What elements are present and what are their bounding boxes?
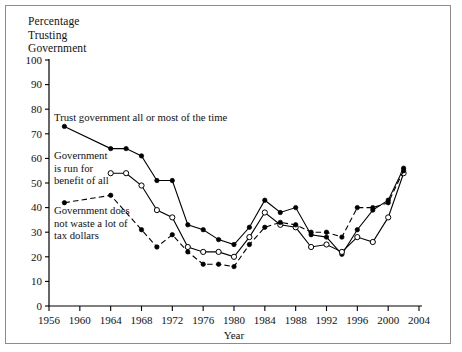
x-tick-label-1968: 1968 — [131, 314, 154, 326]
annotation-benefit-line-2: benefit of all — [54, 174, 109, 186]
x-axis-title: Year — [224, 329, 245, 341]
x-tick-label-1980: 1980 — [223, 314, 246, 326]
data-point-1 — [370, 239, 375, 244]
figure-frame: Percentage Trusting Government 010203040… — [5, 5, 451, 344]
data-point-1 — [108, 171, 113, 176]
x-tick-label-1984: 1984 — [254, 314, 277, 326]
data-point-0 — [324, 235, 328, 239]
series-line-0 — [64, 126, 403, 254]
data-point-2 — [216, 262, 220, 266]
data-point-1 — [339, 249, 344, 254]
data-point-0 — [170, 178, 174, 182]
data-point-1 — [201, 249, 206, 254]
annotation-benefit-line-1: is run for — [54, 162, 94, 174]
data-point-1 — [170, 215, 175, 220]
data-point-1 — [309, 244, 314, 249]
data-point-2 — [294, 223, 298, 227]
data-point-1 — [324, 242, 329, 247]
data-point-0 — [186, 223, 190, 227]
x-tick-label-1956: 1956 — [38, 314, 61, 326]
data-point-0 — [216, 237, 220, 241]
data-point-0 — [62, 124, 66, 128]
data-point-1 — [231, 254, 236, 259]
x-tick-label-1988: 1988 — [285, 314, 308, 326]
annotation-benefit-line-0: Government — [54, 149, 107, 161]
data-point-1 — [185, 244, 190, 249]
data-point-2 — [232, 264, 236, 268]
data-point-0 — [263, 198, 267, 202]
data-point-1 — [124, 171, 129, 176]
data-point-2 — [201, 262, 205, 266]
x-tick-label-2004: 2004 — [408, 314, 431, 326]
y-tick-label-70: 70 — [31, 128, 43, 140]
chart-canvas: 0102030405060708090100195619601964196819… — [6, 6, 452, 345]
annotation-waste-line-2: tax dollars — [54, 229, 99, 241]
data-point-2 — [109, 193, 113, 197]
x-tick-label-1960: 1960 — [69, 314, 92, 326]
data-point-2 — [155, 245, 159, 249]
data-point-0 — [278, 210, 282, 214]
data-point-2 — [186, 250, 190, 254]
data-point-0 — [294, 205, 298, 209]
y-tick-label-80: 80 — [31, 103, 43, 115]
annotation-waste-line-1: not waste a lot of — [54, 217, 128, 229]
y-tick-label-20: 20 — [31, 251, 43, 263]
data-point-1 — [386, 215, 391, 220]
data-point-2 — [324, 230, 328, 234]
x-tick-label-1992: 1992 — [316, 314, 338, 326]
y-tick-label-50: 50 — [31, 177, 43, 189]
series-line-1 — [111, 173, 404, 257]
data-point-1 — [355, 235, 360, 240]
data-point-2 — [371, 205, 375, 209]
x-tick-label-1972: 1972 — [161, 314, 183, 326]
data-point-2 — [401, 169, 405, 173]
y-tick-label-100: 100 — [26, 54, 43, 66]
data-point-2 — [386, 201, 390, 205]
data-point-0 — [155, 178, 159, 182]
y-tick-label-40: 40 — [31, 201, 43, 213]
data-point-2 — [278, 220, 282, 224]
data-point-2 — [309, 230, 313, 234]
data-point-2 — [355, 205, 359, 209]
annotation-waste-line-0: Government does — [54, 204, 130, 216]
data-point-1 — [216, 249, 221, 254]
x-tick-label-1964: 1964 — [100, 314, 123, 326]
data-point-0 — [355, 228, 359, 232]
data-point-2 — [247, 242, 251, 246]
data-point-2 — [263, 225, 267, 229]
data-point-0 — [232, 242, 236, 246]
y-tick-label-90: 90 — [31, 78, 43, 90]
annotation-trust-line-0: Trust government all or most of the time — [54, 111, 228, 123]
data-point-0 — [109, 146, 113, 150]
data-point-1 — [247, 235, 252, 240]
data-point-0 — [139, 154, 143, 158]
data-point-2 — [139, 228, 143, 232]
data-point-0 — [201, 228, 205, 232]
data-point-2 — [340, 235, 344, 239]
y-tick-label-10: 10 — [31, 275, 43, 287]
x-tick-label-2000: 2000 — [377, 314, 400, 326]
x-tick-label-1996: 1996 — [346, 314, 369, 326]
y-tick-label-60: 60 — [31, 152, 43, 164]
data-point-1 — [139, 183, 144, 188]
data-point-1 — [262, 210, 267, 215]
data-point-0 — [124, 146, 128, 150]
data-point-1 — [154, 208, 159, 213]
data-point-0 — [247, 225, 251, 229]
data-point-2 — [170, 233, 174, 237]
x-tick-label-1976: 1976 — [192, 314, 215, 326]
y-tick-label-30: 30 — [31, 226, 43, 238]
y-tick-label-0: 0 — [37, 300, 43, 312]
